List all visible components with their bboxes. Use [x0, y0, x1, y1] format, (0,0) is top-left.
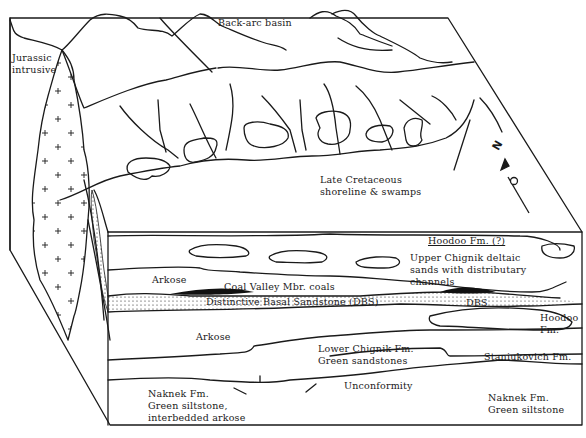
jurassic-intrusive-fill: [32, 50, 89, 340]
label-naknek-right: Naknek Fm. Green siltstone: [488, 392, 564, 416]
coal-seam-right: [440, 288, 496, 294]
label-upper-chignik: Upper Chignik deltaic sands with distrib…: [410, 252, 526, 288]
label-jurassic-intrusive: Jurassic intrusive: [12, 52, 56, 76]
label-coal-valley: Coal Valley Mbr. coals: [224, 281, 335, 293]
label-arkose-upper: Arkose: [152, 274, 187, 286]
label-hoodoo-right: Hoodoo Fm.: [540, 312, 578, 336]
label-staniukovich: Staniukovich Fm.: [484, 351, 571, 363]
label-lower-chignik: Lower Chignik Fm. Green sandstones: [318, 343, 414, 367]
label-back-arc-basin: Back-arc basin: [218, 17, 292, 29]
north-arrow-icon: [501, 159, 529, 213]
label-dbs-short: DBS: [466, 297, 488, 309]
label-arkose-lower: Arkose: [196, 331, 231, 343]
label-unconformity: Unconformity: [344, 380, 413, 392]
diagram-linework: [0, 0, 586, 438]
label-dbs-full: Distinctive Basal Sandstone (DBS): [206, 296, 379, 308]
label-late-cretaceous-shoreline: Late Cretaceous shoreline & swamps: [320, 174, 421, 198]
label-hoodoo-top: Hoodoo Fm. (?): [428, 235, 505, 247]
geologic-block-diagram: Back-arc basin Jurassic intrusive Late C…: [0, 0, 586, 438]
label-naknek-left: Naknek Fm. Green siltstone, interbedded …: [148, 388, 246, 424]
